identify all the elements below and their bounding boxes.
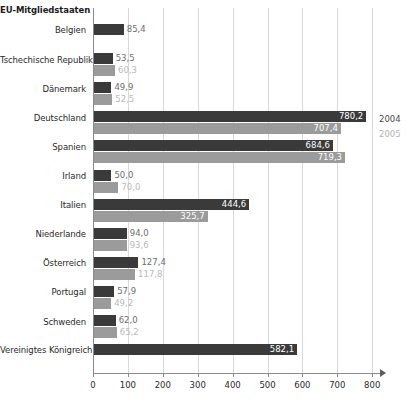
bar-series-2004 xyxy=(94,228,127,239)
category-label: Deutschland xyxy=(0,113,86,123)
bar-series-2004 xyxy=(94,140,333,151)
chart-row: Spanien684,6719,3 xyxy=(0,140,406,163)
bar-value-label: 52,5 xyxy=(115,94,134,105)
bar-series-2005 xyxy=(94,327,117,338)
chart-row: Tschechische Republik53,560,3 xyxy=(0,53,406,76)
bar-value-label: 780,2 xyxy=(339,111,363,122)
bar-chart: EU-Mitgliedstaaten 010020030040050060070… xyxy=(0,0,406,406)
chart-row: Irland50,070,0 xyxy=(0,170,406,193)
x-axis-tick-label: 500 xyxy=(259,380,275,390)
chart-row: Italien444,6325,7 xyxy=(0,199,406,222)
x-axis-tick-label: 100 xyxy=(120,380,136,390)
category-label: Vereinigtes Königreich xyxy=(0,345,86,355)
bar-series-2004 xyxy=(94,82,111,93)
bar-series-2004 xyxy=(94,315,116,326)
x-axis-tick-label: 800 xyxy=(364,380,380,390)
category-label: Schweden xyxy=(0,317,86,327)
chart-row: Niederlande94,093,6 xyxy=(0,228,406,251)
bar-series-2005 xyxy=(94,240,127,251)
category-label: Österreich xyxy=(0,258,86,268)
x-axis-tick xyxy=(302,373,303,377)
chart-row: Österreich127,4117,8 xyxy=(0,257,406,280)
bar-value-label: 93,6 xyxy=(130,240,149,251)
bar-series-2005 xyxy=(94,152,345,163)
bar-series-2005 xyxy=(94,298,111,309)
bar-value-label: 127,4 xyxy=(141,257,165,268)
chart-legend: 2004 2005 xyxy=(379,112,401,142)
x-axis-tick-label: 600 xyxy=(294,380,310,390)
x-axis-tick xyxy=(163,373,164,377)
bar-value-label: 49,9 xyxy=(114,82,133,93)
bar-value-label: 325,7 xyxy=(180,211,204,222)
bar-series-2004 xyxy=(94,257,138,268)
bar-value-label: 719,3 xyxy=(318,152,342,163)
chart-row: Vereinigtes Königreich582,1 xyxy=(0,344,406,367)
x-axis-tick xyxy=(372,373,373,377)
bar-series-2005 xyxy=(94,182,118,193)
chart-row: Dänemark49,952,5 xyxy=(0,82,406,105)
x-axis-tick-label: 200 xyxy=(155,380,171,390)
bar-series-2005 xyxy=(94,94,112,105)
bar-series-2004 xyxy=(94,111,366,122)
chart-row: Deutschland780,2707,4 xyxy=(0,111,406,134)
bar-value-label: 94,0 xyxy=(130,228,149,239)
chart-row: Belgien85,4 xyxy=(0,24,406,47)
category-label: Italien xyxy=(0,200,86,210)
category-label: Irland xyxy=(0,171,86,181)
bar-value-label: 444,6 xyxy=(222,199,246,210)
bar-series-2004 xyxy=(94,24,124,35)
bar-series-2004 xyxy=(94,286,114,297)
bar-series-2004 xyxy=(94,170,111,181)
bar-value-label: 60,3 xyxy=(118,65,137,76)
x-axis-tick xyxy=(268,373,269,377)
x-axis-tick xyxy=(233,373,234,377)
x-axis-tick-label: 300 xyxy=(190,380,206,390)
category-label: Belgien xyxy=(0,25,86,35)
x-axis-tick xyxy=(198,373,199,377)
bar-series-2005 xyxy=(94,123,341,134)
bar-value-label: 53,5 xyxy=(116,53,135,64)
x-axis-tick-label: 400 xyxy=(224,380,240,390)
x-axis-tick-label: 0 xyxy=(90,380,95,390)
bar-value-label: 85,4 xyxy=(127,24,146,35)
bar-value-label: 57,9 xyxy=(117,286,136,297)
bar-value-label: 117,8 xyxy=(138,269,162,280)
category-label: Spanien xyxy=(0,142,86,152)
legend-item-2004: 2004 xyxy=(379,112,401,127)
chart-row: Portugal57,949,2 xyxy=(0,286,406,309)
bar-value-label: 684,6 xyxy=(306,140,330,151)
chart-category-title: EU-Mitgliedstaaten xyxy=(0,5,86,15)
legend-item-2005: 2005 xyxy=(379,127,401,142)
bar-value-label: 49,2 xyxy=(114,298,133,309)
bar-series-2005 xyxy=(94,269,135,280)
x-axis-tick xyxy=(337,373,338,377)
bar-value-label: 65,2 xyxy=(120,327,139,338)
bar-series-2004 xyxy=(94,53,113,64)
bar-value-label: 62,0 xyxy=(119,315,138,326)
category-label: Tschechische Republik xyxy=(0,55,86,65)
x-axis-arrow-icon xyxy=(380,369,386,377)
bar-value-label: 70,0 xyxy=(121,182,140,193)
bar-series-2005 xyxy=(94,65,115,76)
x-axis-tick xyxy=(93,373,94,377)
category-label: Dänemark xyxy=(0,84,86,94)
bar-value-label: 582,1 xyxy=(270,344,294,355)
category-label: Portugal xyxy=(0,287,86,297)
bar-value-label: 707,4 xyxy=(314,123,338,134)
chart-row: Schweden62,065,2 xyxy=(0,315,406,338)
bar-value-label: 50,0 xyxy=(114,170,133,181)
category-label: Niederlande xyxy=(0,229,86,239)
x-axis-tick xyxy=(128,373,129,377)
bar-series-2004 xyxy=(94,344,297,355)
x-axis-tick-label: 700 xyxy=(329,380,345,390)
